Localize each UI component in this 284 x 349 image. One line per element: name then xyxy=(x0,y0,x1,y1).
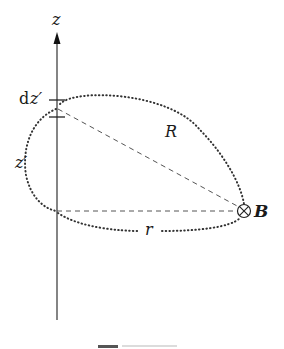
field-label-B: B xyxy=(253,201,268,221)
height-arc-z-prime xyxy=(25,109,56,211)
distance-arc-R xyxy=(60,95,244,204)
dz-label-d: d xyxy=(19,89,29,108)
height-label-z-prime: z′ xyxy=(14,153,27,172)
cropped-caption-artifact xyxy=(98,345,118,348)
field-into-page-icon xyxy=(238,205,251,218)
distance-line-R xyxy=(58,109,239,207)
cropped-caption-artifact-faint xyxy=(122,345,177,347)
biot-savart-diagram: z d z′ R z′ r B xyxy=(0,0,284,349)
dz-label: d z′ xyxy=(19,89,42,108)
z-axis-arrowhead-icon xyxy=(54,32,61,44)
distance-label-R: R xyxy=(164,122,177,141)
dz-label-z: z′ xyxy=(29,89,42,108)
radius-label-r: r xyxy=(145,220,154,239)
z-axis-label: z xyxy=(51,10,61,29)
